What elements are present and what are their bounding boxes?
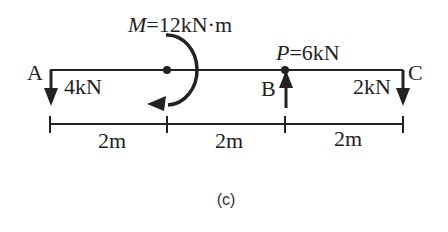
- point-load-label: P=6kN: [275, 40, 340, 65]
- moment-point-dot: [163, 66, 171, 74]
- figure-caption: (c): [217, 191, 236, 208]
- load-arrow-a-icon: [44, 70, 58, 106]
- point-c-label: C: [408, 60, 423, 85]
- load-a-label: 4kN: [64, 74, 102, 99]
- span-label-2: 2m: [215, 128, 243, 153]
- point-b-label: B: [261, 76, 276, 101]
- load-c-label: 2kN: [353, 74, 391, 99]
- point-load-arrow-b-icon: [279, 70, 293, 108]
- point-a-label: A: [27, 60, 43, 85]
- moment-label: M=12kN·m: [127, 12, 232, 37]
- span-label-1: 2m: [98, 128, 126, 153]
- span-label-3: 2m: [334, 126, 362, 151]
- beam-diagram: M=12kN·m P=6kN A B C 4kN 2kN 2m 2m 2m (c…: [0, 0, 448, 232]
- moment-arrow-icon: [147, 35, 197, 111]
